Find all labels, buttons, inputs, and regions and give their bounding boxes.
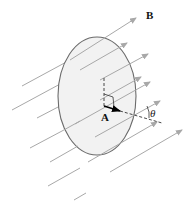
area-label-a: A xyxy=(101,111,109,123)
field-label-b: B xyxy=(146,9,154,21)
angle-label-theta: θ xyxy=(150,107,156,119)
flux-diagram: B A θ xyxy=(0,0,190,204)
diagram-canvas: B A θ xyxy=(0,0,190,204)
